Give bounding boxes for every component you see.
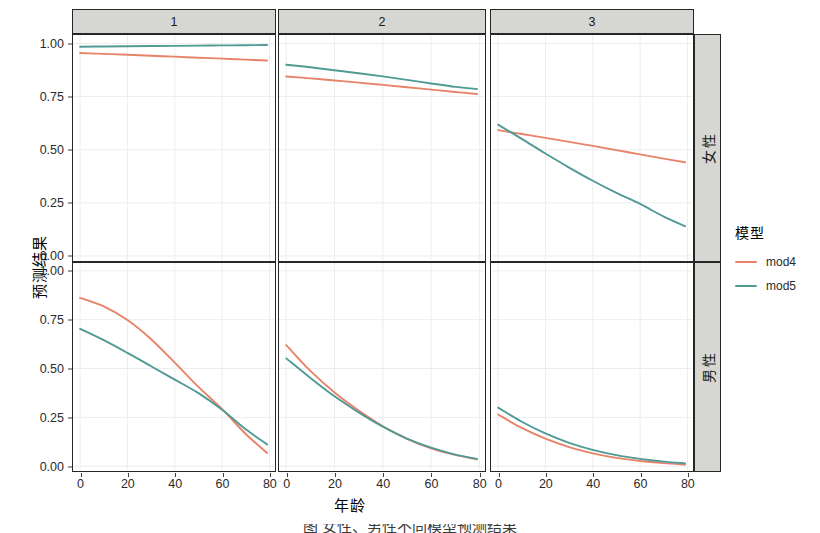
legend-item-mod4[interactable]: mod4	[735, 252, 815, 272]
figure-caption: 图 ⼥性、男性不同模型预测结果	[0, 524, 820, 533]
series-line-mod4	[80, 298, 267, 453]
legend-key-line-icon	[735, 285, 757, 287]
x-tick-mark	[499, 473, 500, 477]
gridlines	[73, 263, 274, 470]
x-tick-label: 40	[586, 477, 600, 491]
x-tick-mark	[335, 473, 336, 477]
series-line-mod4	[498, 130, 685, 162]
x-tick-mark	[223, 473, 224, 477]
x-tick-mark	[593, 473, 594, 477]
y-tick-mark	[68, 466, 72, 467]
panel-3-male	[490, 262, 694, 472]
facet-row-strip-female: 女性	[694, 34, 721, 262]
legend: 模型 mod4mod5	[735, 222, 815, 300]
x-tick-label: 20	[328, 477, 342, 491]
y-tick-mark	[68, 97, 72, 98]
x-tick-label: 60	[425, 477, 439, 491]
x-tick-mark	[270, 473, 271, 477]
x-tick-label: 40	[376, 477, 390, 491]
facet-col-strip-label: 1	[171, 15, 178, 29]
legend-item-label: mod5	[766, 279, 796, 293]
y-tick-mark	[68, 368, 72, 369]
gridlines	[73, 35, 274, 260]
panel-1-male	[72, 262, 276, 472]
gridlines	[279, 35, 484, 260]
legend-title: 模型	[735, 222, 815, 242]
x-tick-label: 80	[263, 477, 277, 491]
facet-row-strip-male: 男性	[694, 262, 721, 472]
y-tick-label: 1.00	[18, 264, 64, 278]
x-tick-mark	[383, 473, 384, 477]
x-tick-label: 0	[495, 477, 502, 491]
x-tick-label: 20	[539, 477, 553, 491]
x-tick-label: 0	[283, 477, 290, 491]
x-tick-label: 40	[168, 477, 182, 491]
x-tick-mark	[641, 473, 642, 477]
series-line-mod4	[286, 345, 477, 459]
panel-2-female	[278, 34, 486, 262]
x-tick-label: 60	[634, 477, 648, 491]
y-tick-mark	[68, 256, 72, 257]
y-tick-label: 0.25	[18, 196, 64, 210]
gridlines	[491, 263, 692, 470]
legend-item-mod5[interactable]: mod5	[735, 276, 815, 296]
x-tick-mark	[128, 473, 129, 477]
y-tick-mark	[68, 43, 72, 44]
series-line-mod5	[498, 125, 685, 227]
panel-3-female	[490, 34, 694, 262]
gridlines	[491, 35, 692, 260]
y-tick-label: 0.00	[18, 249, 64, 263]
y-tick-mark	[68, 320, 72, 321]
x-tick-mark	[546, 473, 547, 477]
panel-1-female	[72, 34, 276, 262]
series-line-mod5	[498, 408, 685, 464]
x-tick-label: 0	[77, 477, 84, 491]
y-tick-label: 0.75	[18, 313, 64, 327]
y-tick-mark	[68, 271, 72, 272]
legend-items: mod4mod5	[735, 252, 815, 296]
x-tick-mark	[480, 473, 481, 477]
y-tick-mark	[68, 203, 72, 204]
y-tick-label: 0.00	[18, 460, 64, 474]
y-tick-mark	[68, 417, 72, 418]
y-tick-label: 0.50	[18, 143, 64, 157]
x-tick-mark	[81, 473, 82, 477]
x-tick-label: 20	[121, 477, 135, 491]
facet-col-strip-label: 3	[589, 15, 596, 29]
legend-item-label: mod4	[766, 255, 796, 269]
y-tick-label: 0.50	[18, 362, 64, 376]
legend-key-line-icon	[735, 261, 757, 263]
x-axis-title: 年龄	[0, 494, 700, 515]
facet-col-strip-2: 2	[278, 9, 486, 34]
x-tick-mark	[431, 473, 432, 477]
facet-col-strip-label: 2	[379, 15, 386, 29]
facet-row-strip-label: 男性	[698, 351, 718, 383]
x-tick-mark	[175, 473, 176, 477]
series-line-mod4	[80, 53, 267, 60]
y-tick-label: 0.75	[18, 90, 64, 104]
x-tick-label: 60	[216, 477, 230, 491]
figure-caption-text: 图 ⼥性、男性不同模型预测结果	[0, 524, 820, 533]
series-line-mod5	[80, 45, 267, 47]
series-line-mod4	[498, 414, 685, 464]
facet-col-strip-3: 3	[490, 9, 694, 34]
panel-2-male	[278, 262, 486, 472]
x-tick-mark	[688, 473, 689, 477]
faceted-line-chart: 预测结果 年龄 123 女性男性 0.000.250.500.751.000.0…	[0, 0, 820, 533]
x-tick-mark	[287, 473, 288, 477]
series-line-mod5	[286, 358, 477, 458]
x-tick-label: 80	[681, 477, 695, 491]
y-tick-label: 1.00	[18, 37, 64, 51]
y-tick-mark	[68, 150, 72, 151]
facet-row-strip-label: 女性	[698, 132, 718, 164]
y-tick-label: 0.25	[18, 411, 64, 425]
x-tick-label: 80	[473, 477, 487, 491]
facet-col-strip-1: 1	[72, 9, 276, 34]
gridlines	[279, 263, 484, 470]
